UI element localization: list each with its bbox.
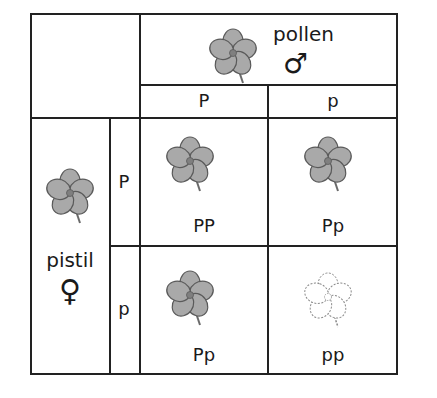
purple-flower-icon [198, 18, 268, 88]
grid-body-top-line [30, 117, 398, 119]
grid-right-border [396, 13, 398, 375]
genotype-label: Pp [193, 346, 215, 364]
genotype-label: PP [193, 217, 215, 235]
grid-row-divider [109, 245, 398, 247]
purple-flower-icon [155, 126, 225, 196]
purple-flower-icon [293, 126, 363, 196]
row-header-recessive: p [118, 300, 129, 318]
purple-flower-icon [35, 158, 105, 228]
row-header-dominant: P [119, 173, 130, 191]
column-header-recessive: p [327, 92, 338, 110]
column-header-dominant: P [199, 92, 210, 110]
genotype-label: Pp [322, 217, 344, 235]
genotype-label: pp [322, 346, 345, 364]
grid-column-divider [267, 84, 269, 375]
white-flower-icon [293, 262, 363, 332]
grid-header-divider [139, 13, 141, 375]
female-symbol-icon: ♀ [59, 276, 81, 306]
grid-top-border [30, 13, 398, 15]
grid-bottom-border [30, 373, 398, 375]
grid-left-border [30, 13, 32, 375]
pollen-label: pollen [273, 24, 334, 44]
pistil-label: pistil [46, 250, 94, 270]
purple-flower-icon [155, 260, 225, 330]
male-symbol-icon: ♂ [283, 50, 308, 78]
